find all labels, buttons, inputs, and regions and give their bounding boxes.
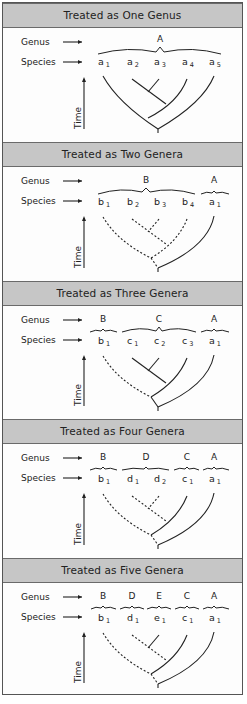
svg-text:c2: c2 [154,335,165,348]
diagram-frame: Treated as One Genus Genus Species Time … [2,2,243,695]
species-row-label: Species [21,335,56,345]
svg-text:a1: a1 [209,196,221,209]
phylogeny-tree: Genus Species Time B A b1 b2 b3 b4 a1 [3,142,242,281]
svg-text:a1: a1 [209,612,221,625]
svg-text:b3: b3 [154,196,166,209]
panel-three-genera: Treated as Three Genera Genus Species Ti… [3,281,242,419]
time-axis-label: Time [73,246,83,269]
phylogeny-tree: Genus Species Time B D C A b1 d1 d2 c1 a… [3,419,242,558]
panel-one-genus: Treated as One Genus Genus Species Time … [3,3,242,142]
svg-text:c1: c1 [182,612,193,625]
svg-text:b1: b1 [98,335,110,348]
species-labels: b1 c1 c2 c3 a1 [98,335,221,348]
genus-label: E [156,591,162,601]
species-labels: b1 d1 e1 c1 a1 [98,612,221,625]
svg-text:c1: c1 [127,335,138,348]
panel-two-genera: Treated as Two Genera Genus Species Time… [3,142,242,281]
panel-four-genera: Treated as Four Genera Genus Species Tim… [3,419,242,558]
genus-brace [203,606,229,609]
svg-text:c3: c3 [182,335,193,348]
arrow-icon [63,456,82,460]
svg-text:a1: a1 [209,335,221,348]
genus-brace [147,606,171,609]
genus-label: D [143,452,150,462]
genus-row-label: Genus [21,37,50,47]
arrow-icon [63,615,82,619]
genus-brace [90,467,117,470]
genus-brace [174,467,199,470]
tree-branches [103,216,214,272]
genus-brace [120,606,144,609]
genus-row-label: Genus [21,315,50,325]
species-labels: b1 d1 d2 c1 a1 [98,473,221,486]
genus-label: B [100,314,106,324]
arrow-icon [63,179,82,183]
svg-text:a4: a4 [182,56,194,69]
tree-branches [103,493,214,549]
genus-label: C [184,591,190,601]
genus-label: D [129,591,136,601]
svg-text:d1: d1 [127,612,139,625]
genus-brace [91,606,116,609]
genus-label: A [211,452,218,462]
svg-text:d1: d1 [127,473,139,486]
genus-brace [203,467,229,470]
svg-text:c1: c1 [182,473,193,486]
species-row-label: Species [21,196,56,206]
genus-label: B [100,591,106,601]
phylogeny-tree: Genus Species Time A a1 a2 a3 a4 a5 [3,3,242,142]
svg-text:b2: b2 [127,196,139,209]
tree-branches [103,632,214,688]
arrow-icon [63,60,82,64]
time-axis-label: Time [73,523,83,546]
arrow-icon [63,338,82,342]
genus-brace [122,467,169,470]
genus-row-label: Genus [21,453,50,463]
time-axis-label: Time [73,384,83,407]
arrow-icon [63,318,82,322]
genus-label: A [211,314,218,324]
svg-text:a1: a1 [98,56,110,69]
genus-brace [201,191,229,194]
phylogeny-tree: Genus Species Time B C A b1 c1 c2 c3 a1 [3,281,242,419]
panel-five-genera: Treated as Five Genera Genus Species Tim… [3,558,242,696]
genus-label: A [211,175,218,185]
svg-text:a3: a3 [154,56,166,69]
arrow-icon [63,40,82,44]
svg-text:a2: a2 [127,56,139,69]
tree-branches [103,355,214,411]
genus-label: C [156,314,162,324]
species-row-label: Species [21,612,56,622]
species-labels: b1 b2 b3 b4 a1 [98,196,221,209]
genus-label: A [157,34,164,44]
genus-brace [175,606,199,609]
genus-row-label: Genus [21,592,50,602]
genus-label: B [143,175,149,185]
svg-text:a5: a5 [209,56,221,69]
svg-text:b1: b1 [98,473,110,486]
genus-label: B [100,452,106,462]
species-row-label: Species [21,473,56,483]
svg-text:e1: e1 [154,612,166,625]
genus-brace [98,188,195,194]
svg-text:d2: d2 [154,473,166,486]
genus-label: C [184,452,190,462]
arrow-icon [63,199,82,203]
genus-row-label: Genus [21,176,50,186]
arrow-icon [63,595,82,599]
svg-text:b1: b1 [98,612,110,625]
species-row-label: Species [21,57,56,67]
time-axis-label: Time [73,661,83,684]
svg-text:a1: a1 [209,473,221,486]
genus-brace [122,327,196,332]
genus-brace [98,47,221,54]
genus-brace [201,329,229,332]
arrow-icon [63,476,82,480]
svg-text:b1: b1 [98,196,110,209]
genus-label: A [211,591,218,601]
time-axis-label: Time [73,107,83,130]
species-labels: a1 a2 a3 a4 a5 [98,56,221,69]
svg-text:b4: b4 [182,196,194,209]
phylogeny-tree: Genus Species Time B D E C A b1 d1 e1 c1… [3,558,242,696]
genus-brace [90,329,117,332]
